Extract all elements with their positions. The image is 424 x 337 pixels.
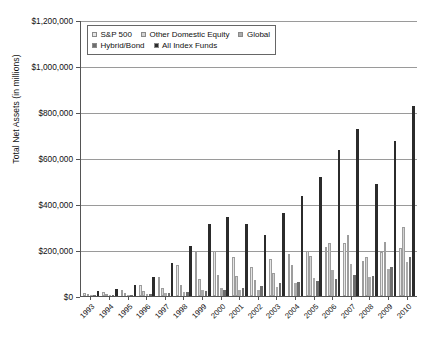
- x-axis-tick-label: 2000: [209, 302, 227, 320]
- bar: [325, 247, 328, 296]
- x-axis-tick-mark: [221, 297, 222, 300]
- bar: [365, 257, 368, 296]
- bar: [294, 283, 297, 296]
- bar-group: [101, 21, 120, 296]
- bar: [149, 294, 152, 296]
- legend-swatch-icon: [154, 43, 159, 48]
- bar: [353, 275, 356, 296]
- bar-group: [323, 21, 342, 296]
- x-axis-cell: 1996: [137, 297, 156, 337]
- x-axis-tick-label: 1997: [153, 302, 171, 320]
- bar-chart: Total Net Assets (in millions) $1,200,00…: [0, 0, 424, 337]
- bar: [208, 224, 211, 296]
- bar: [368, 277, 371, 296]
- x-axis-tick-label: 2005: [302, 302, 320, 320]
- bar: [380, 252, 383, 296]
- bar: [331, 270, 334, 296]
- bar: [186, 292, 189, 296]
- legend-label: All Index Funds: [162, 40, 217, 51]
- bar: [223, 290, 226, 296]
- bar-group: [231, 21, 250, 296]
- bar: [347, 235, 350, 296]
- y-axis-tick-mark: [76, 67, 80, 68]
- legend-swatch-icon: [92, 43, 97, 48]
- bar: [387, 269, 390, 296]
- y-axis-tick-mark: [76, 205, 80, 206]
- bar: [245, 224, 248, 296]
- bar: [112, 295, 115, 296]
- x-axis-tick-mark: [276, 297, 277, 300]
- y-axis-tick-label: $1,000,000: [0, 62, 73, 72]
- bar: [375, 184, 378, 296]
- bar-group: [360, 21, 379, 296]
- x-axis-tick-mark: [351, 297, 352, 300]
- bar-group: [212, 21, 231, 296]
- bar: [282, 213, 285, 296]
- bar: [180, 285, 183, 297]
- bar: [338, 150, 341, 296]
- bar: [254, 280, 257, 296]
- x-axis-cell: 2010: [397, 297, 416, 337]
- y-axis-tick-mark: [76, 251, 80, 252]
- legend-label: S&P 500: [101, 29, 132, 40]
- y-axis-tick-label: $800,000: [0, 108, 73, 118]
- bar: [319, 177, 322, 296]
- bar: [102, 292, 105, 296]
- bar: [97, 291, 100, 296]
- bar: [109, 295, 112, 296]
- bar: [115, 289, 118, 296]
- bar: [235, 276, 238, 296]
- x-axis-tick-label: 2004: [283, 302, 301, 320]
- plot-area: [80, 21, 417, 297]
- bar: [164, 293, 167, 296]
- x-axis-tick-label: 1995: [116, 302, 134, 320]
- x-axis-cell: 2009: [379, 297, 398, 337]
- x-axis-tick-label: 2010: [395, 302, 413, 320]
- bar: [350, 264, 353, 296]
- legend-swatch-icon: [141, 32, 146, 37]
- bar: [297, 282, 300, 296]
- x-axis-tick-mark: [388, 297, 389, 300]
- x-axis-tick-label: 2009: [376, 302, 394, 320]
- chart-legend: S&P 500Other Domestic EquityGlobalHybrid…: [87, 25, 276, 55]
- legend-item: Hybrid/Bond: [92, 40, 145, 51]
- x-axis-tick-label: 2001: [227, 302, 245, 320]
- y-axis-tick-mark: [76, 21, 80, 22]
- legend-row: Hybrid/BondAll Index Funds: [92, 40, 270, 51]
- bar-group: [268, 21, 287, 296]
- x-axis-cell: 2005: [304, 297, 323, 337]
- x-axis-cell: 1993: [81, 297, 100, 337]
- bar: [198, 279, 201, 296]
- x-axis-labels: 1993199419951996199719981999200020012002…: [80, 297, 417, 337]
- bar-group: [138, 21, 157, 296]
- y-axis-tick-label: $0: [0, 292, 73, 302]
- legend-item: Global: [238, 29, 270, 40]
- bar: [250, 267, 253, 296]
- bar: [93, 295, 96, 296]
- x-axis-tick-label: 1999: [190, 302, 208, 320]
- bar-groups: [81, 21, 417, 296]
- bar: [161, 288, 164, 296]
- bar: [152, 277, 155, 296]
- x-axis-tick-label: 2008: [357, 302, 375, 320]
- x-axis-cell: 1999: [193, 297, 212, 337]
- x-axis-cell: 1998: [174, 297, 193, 337]
- x-axis-tick-label: 2007: [339, 302, 357, 320]
- bar: [171, 263, 174, 296]
- bar: [232, 257, 235, 296]
- bar: [288, 254, 291, 296]
- bar-group: [193, 21, 212, 296]
- bar: [260, 286, 263, 296]
- bar-group: [249, 21, 268, 296]
- y-axis-tick-mark: [76, 113, 80, 114]
- bar: [316, 281, 319, 296]
- bar: [183, 292, 186, 296]
- y-axis-tick-label: $200,000: [0, 246, 73, 256]
- y-axis-tick-label: $600,000: [0, 154, 73, 164]
- bar: [279, 283, 282, 296]
- bar: [384, 242, 387, 297]
- x-axis-cell: 2001: [230, 297, 249, 337]
- bar: [146, 294, 149, 296]
- x-axis-cell: 2004: [286, 297, 305, 337]
- bar: [127, 295, 130, 296]
